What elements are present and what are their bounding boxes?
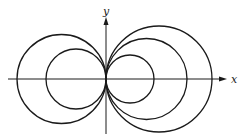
x-axis-arrow-icon [219, 77, 227, 82]
tangent-circles-diagram: x y [0, 0, 244, 135]
axes [8, 22, 224, 134]
y-axis-arrow-icon [104, 17, 109, 25]
x-axis-label: x [231, 73, 238, 86]
y-axis-label: y [102, 5, 110, 18]
